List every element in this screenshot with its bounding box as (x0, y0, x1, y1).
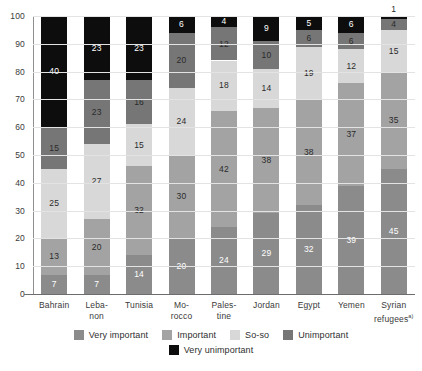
y-tick-label: 50 (15, 151, 25, 160)
bar-segment-value: 35 (389, 116, 399, 125)
grid-line (33, 72, 415, 73)
bar-segment[interactable]: 5 (296, 16, 322, 30)
bar-segment[interactable]: 45 (381, 169, 407, 294)
bar-segment-value: 7 (94, 280, 99, 289)
bar-segment-value: 4 (222, 17, 227, 26)
bar-segment-value: 20 (92, 243, 102, 252)
bar-segment[interactable]: 16 (126, 80, 152, 124)
bar-segment[interactable]: 38 (296, 99, 322, 205)
x-axis-label: Leba-non (75, 300, 117, 321)
bar-segment-value: 30 (177, 192, 187, 201)
bar-segment-value: 15 (49, 144, 59, 153)
bar-segment-value: 37 (346, 130, 356, 139)
grid-line (33, 16, 415, 17)
bar-segment-value: 9 (264, 24, 269, 33)
bar-segment[interactable]: 14 (253, 69, 279, 108)
bar-segment-value: 12 (346, 62, 356, 71)
x-axis-label: Pales-tine (203, 300, 245, 321)
legend-label: Unimportant (298, 331, 348, 340)
grid-line (33, 238, 415, 239)
bar-segment-value: 6 (306, 34, 311, 43)
bar-segment-value: 14 (262, 84, 272, 93)
legend-item[interactable]: Very important (74, 330, 148, 340)
legend-item[interactable]: Very unimportant (169, 345, 254, 355)
bar-segment-value: 6 (179, 20, 184, 29)
bar-segment-value: 42 (219, 165, 229, 174)
y-tick-label: 60 (15, 123, 25, 132)
bar-segment[interactable]: 25 (41, 169, 67, 239)
bar-segment[interactable]: 30 (169, 155, 195, 238)
chart-legend: Very importantImportantSo-soUnimportant … (0, 330, 422, 355)
bar-segment[interactable]: 6 (338, 33, 364, 50)
legend-label: Very important (89, 331, 148, 340)
y-axis-ticks: 0102030405060708090100 (0, 16, 30, 294)
bar-segment[interactable]: 7 (84, 275, 110, 294)
bar-segment[interactable]: 32 (296, 205, 322, 294)
legend-item[interactable]: Unimportant (283, 330, 348, 340)
bar-segment[interactable]: 6 (338, 16, 364, 33)
legend-item[interactable]: So-so (230, 330, 269, 340)
y-tick-label: 40 (15, 179, 25, 188)
bar-segment[interactable]: 24 (211, 227, 237, 294)
bar-segment-value: 5 (306, 19, 311, 28)
y-tick-label: 100 (10, 12, 25, 21)
x-axis-label: Tunisia (118, 300, 160, 311)
bar-segment[interactable]: 23 (84, 16, 110, 80)
x-axis-label: Egypt (288, 300, 330, 311)
y-tick-label: 90 (15, 40, 25, 49)
bar-segment-value: 38 (262, 156, 272, 165)
bar-segment[interactable]: 15 (126, 124, 152, 166)
grid-line (33, 44, 415, 45)
bar-segment-value: 32 (304, 245, 314, 254)
bar-segment-value: 29 (262, 249, 272, 258)
bar-segment[interactable]: 7 (41, 275, 67, 294)
bar-segment[interactable]: 4 (211, 16, 237, 27)
grid-line (33, 266, 415, 267)
bar-segment[interactable]: 29 (253, 213, 279, 294)
bar-segment-value: 23 (92, 108, 102, 117)
bar-segment[interactable]: 6 (169, 16, 195, 33)
bar-segment[interactable]: 24 (169, 88, 195, 155)
bar-segment[interactable]: 15 (41, 127, 67, 169)
bar-segment-value: 18 (219, 81, 229, 90)
x-axis-labels: BahrainLeba-nonTunisiaMo-roccoPales-tine… (33, 300, 415, 324)
bar-segment[interactable]: 13 (41, 238, 67, 274)
bar-segment-value: 6 (349, 20, 354, 29)
bar-segment[interactable]: 9 (253, 16, 279, 41)
legend-item[interactable]: Important (162, 330, 216, 340)
legend-row-primary: Very importantImportantSo-soUnimportant (0, 330, 422, 340)
bar-segment-value: 15 (389, 47, 399, 56)
bar-segment[interactable]: 20 (169, 33, 195, 89)
bar-segment-value: 27 (92, 177, 102, 186)
y-tick-label: 80 (15, 67, 25, 76)
legend-swatch (230, 330, 240, 340)
bar-segment[interactable]: 10 (253, 41, 279, 69)
bar-segment-value: 10 (262, 51, 272, 60)
legend-swatch (74, 330, 84, 340)
grid-line (33, 211, 415, 212)
grid-line (33, 183, 415, 184)
bar-segment-value: 4 (391, 20, 396, 29)
bar-segment-value: 25 (49, 199, 59, 208)
bar-segment[interactable]: 19 (296, 47, 322, 100)
bar-segment[interactable]: 15 (381, 30, 407, 72)
grid-line (33, 155, 415, 156)
legend-row-secondary: Very unimportant (0, 345, 422, 355)
bar-segment[interactable]: 37 (338, 83, 364, 186)
y-tick-label: 70 (15, 95, 25, 104)
bar-segment[interactable]: 23 (126, 16, 152, 80)
bar-segment[interactable]: 4 (381, 19, 407, 30)
bar-segment[interactable]: 23 (84, 80, 110, 144)
bar-segment-value: 14 (134, 270, 144, 279)
x-axis-label: Syrianrefugeesa) (373, 300, 415, 324)
bar-segment[interactable]: 39 (338, 186, 364, 294)
x-axis-label: Mo-rocco (160, 300, 202, 321)
bar-segment[interactable]: 18 (211, 61, 237, 111)
bar-segment[interactable]: 12 (338, 49, 364, 82)
bar-segment-value: 23 (92, 44, 102, 53)
y-tick-label: 20 (15, 234, 25, 243)
bar-segment[interactable]: 38 (253, 108, 279, 214)
bar-segment[interactable]: 14 (126, 255, 152, 294)
legend-label: Important (177, 331, 216, 340)
legend-swatch (169, 345, 179, 355)
